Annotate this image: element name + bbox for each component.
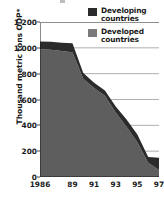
y-axis-tick-mark <box>37 125 40 126</box>
y-axis-tick-mark <box>37 151 40 152</box>
y-axis-tick-label: 1 000 <box>14 43 37 52</box>
chart-svg <box>40 22 159 177</box>
area-series-developed <box>40 49 159 177</box>
chart-root: Developingcountries Developedcountries T… <box>0 0 164 200</box>
y-axis-tick-mark <box>37 177 40 178</box>
y-axis-tick-label: 600 <box>22 95 37 104</box>
y-axis-tick-mark <box>37 99 40 100</box>
y-axis-tick-label: 1 200 <box>14 18 37 27</box>
y-axis-tick-label: 800 <box>22 69 37 78</box>
y-axis-tick-mark <box>37 47 40 48</box>
crop-mark <box>60 0 65 3</box>
x-axis-tick-label: 1986 <box>30 180 51 189</box>
y-axis-tick-mark <box>37 73 40 74</box>
x-axis-tick-label: 89 <box>67 180 77 189</box>
legend-swatch-developing-icon <box>88 8 97 16</box>
plot-area: 02004006008001 0001 200 <box>40 22 159 177</box>
x-axis-tick-label: 97 <box>154 180 164 189</box>
y-axis-tick-label: 200 <box>22 147 37 156</box>
y-axis-tick-label: 400 <box>22 121 37 130</box>
x-axis-labels: 19868991939597 <box>36 180 164 192</box>
gridline-top <box>40 22 159 23</box>
x-axis-tick-label: 93 <box>111 180 121 189</box>
x-axis-tick-label: 95 <box>132 180 142 189</box>
x-axis-tick-label: 91 <box>89 180 99 189</box>
